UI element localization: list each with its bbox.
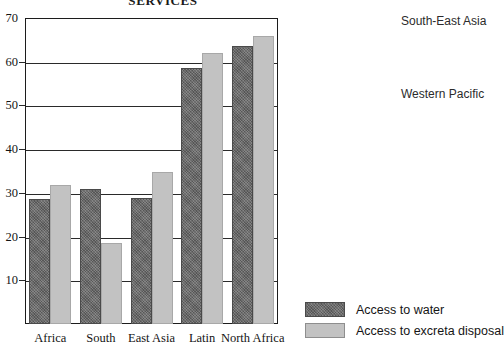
y-tick-label: 50 bbox=[6, 98, 19, 113]
bar-group bbox=[131, 18, 173, 324]
bar-access-to-excreta-disposal bbox=[202, 53, 223, 324]
x-tick-label: Africa bbox=[34, 331, 66, 346]
y-tick-label: 60 bbox=[6, 54, 19, 69]
y-axis: 10203040506070 bbox=[0, 0, 25, 356]
chart-legend: Access to water Access to excreta dispos… bbox=[305, 300, 504, 342]
y-tick-label: 10 bbox=[6, 273, 19, 288]
region-note-western-pacific: Western Pacific bbox=[401, 87, 484, 101]
legend-swatch-light-icon bbox=[305, 323, 345, 338]
x-tick-label: North Africa bbox=[221, 331, 285, 346]
bar-group bbox=[232, 18, 274, 324]
legend-label: Access to water bbox=[356, 303, 444, 317]
legend-swatch-dark-icon bbox=[305, 302, 345, 317]
bar-group bbox=[80, 18, 122, 324]
x-tick-label: Latin bbox=[189, 331, 215, 346]
region-note-south-east-asia: South-East Asia bbox=[401, 14, 486, 28]
bar-group bbox=[181, 18, 223, 324]
y-tick-label: 70 bbox=[6, 11, 19, 26]
bar-access-to-water bbox=[232, 46, 253, 324]
chart-title: SERVICES bbox=[78, 0, 248, 9]
bars-layer bbox=[25, 18, 278, 324]
bar-access-to-excreta-disposal bbox=[50, 185, 71, 324]
bar-access-to-excreta-disposal bbox=[253, 36, 274, 324]
legend-item-access-to-excreta-disposal: Access to excreta disposal bbox=[305, 321, 504, 340]
y-tick-label: 40 bbox=[6, 142, 19, 157]
bar-group bbox=[29, 18, 71, 324]
legend-label: Access to excreta disposal bbox=[356, 324, 504, 338]
bar-access-to-water bbox=[80, 189, 101, 325]
x-axis: AfricaSouthEast AsiaLatinNorth Africa bbox=[25, 331, 278, 353]
bar-access-to-water bbox=[131, 198, 152, 324]
x-tick-label: South bbox=[86, 331, 115, 346]
bar-access-to-water bbox=[29, 199, 50, 324]
legend-item-access-to-water: Access to water bbox=[305, 300, 504, 319]
y-tick-label: 20 bbox=[6, 229, 19, 244]
x-tick-label: East Asia bbox=[128, 331, 175, 346]
bar-access-to-excreta-disposal bbox=[152, 172, 173, 324]
y-tick-label: 30 bbox=[6, 185, 19, 200]
bar-access-to-water bbox=[181, 68, 202, 324]
bar-access-to-excreta-disposal bbox=[101, 243, 122, 324]
